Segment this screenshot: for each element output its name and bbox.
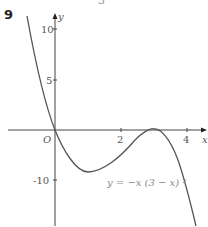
cubic-graph: y 10 5 -10 O 2 4 x y = −x (3 − x) ²	[0, 0, 208, 227]
origin-label: O	[43, 134, 51, 145]
y-tick-label-neg10: -10	[33, 175, 49, 186]
y-axis-label: y	[57, 11, 64, 22]
curve-line	[27, 16, 196, 226]
x-axis-arrow-icon	[201, 128, 207, 133]
y-tick-label-5: 5	[46, 75, 52, 86]
x-tick-label-2: 2	[117, 134, 123, 145]
x-tick-label-4: 4	[183, 134, 189, 145]
y-axis-arrow-icon	[53, 13, 58, 19]
x-axis-label: x	[202, 134, 208, 145]
y-tick-label-10: 10	[41, 24, 54, 35]
equation-label: y = −x (3 − x) ²	[106, 177, 186, 188]
